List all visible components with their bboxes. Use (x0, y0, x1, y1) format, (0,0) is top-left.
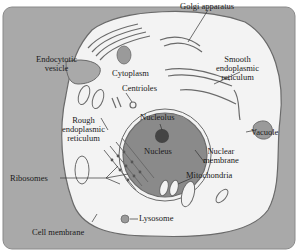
label-ribosomes: Ribosomes (10, 174, 48, 183)
cell-diagram: Golgi apparatus Endocytotic vesicle Cyto… (0, 0, 298, 252)
label-smooth-er-line3: reticulum (216, 73, 259, 82)
label-endocytotic-line2: vesicle (36, 64, 77, 73)
label-cell-membrane: Cell membrane (32, 228, 84, 237)
lysosome (121, 215, 129, 223)
label-rough-er: Rough endoplasmic reticulum (62, 116, 105, 143)
label-cytoplasm: Cytoplasm (112, 69, 149, 78)
label-smooth-er: Smooth endoplasmic reticulum (216, 55, 259, 82)
golgi-vesicle (117, 46, 131, 64)
label-nuclear-membrane: Nuclear membrane (203, 147, 239, 165)
label-vacuole: Vacuole (251, 128, 278, 137)
label-golgi-apparatus: Golgi apparatus (180, 2, 234, 11)
label-nucleolus: Nucleolus (140, 113, 174, 122)
label-rough-er-line3: reticulum (62, 134, 105, 143)
label-mitochondria: Mitochondria (186, 171, 232, 180)
label-endocytotic-vesicle: Endocytotic vesicle (36, 55, 77, 73)
nucleolus (155, 129, 169, 143)
label-nucleus: Nucleus (144, 147, 172, 156)
label-centrioles: Centrioles (122, 84, 157, 93)
label-lysosome: Lysosome (139, 214, 173, 223)
label-nuclear-membrane-line2: membrane (203, 156, 239, 165)
